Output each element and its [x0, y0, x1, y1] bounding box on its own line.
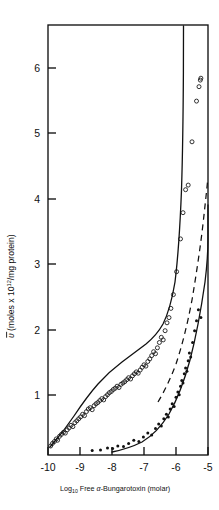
- y-axis-tick-labels: 6 5 4 3 2 1: [34, 62, 40, 401]
- data-point-filled: [154, 427, 157, 430]
- binding-curve-plot: 6 5 4 3 2 1 -10 -9 -8 -7 -6 -5: [0, 0, 219, 510]
- x-tick-label-neg7: -7: [139, 461, 148, 473]
- x-axis-title: Log10 Free α-Bungarotoxin (molar): [60, 484, 170, 494]
- data-point-filled: [187, 359, 190, 362]
- data-point-filled: [91, 449, 94, 452]
- data-point-filled: [165, 413, 168, 416]
- svg-text:υ (moles x 1012/mg protein): υ (moles x 1012/mg protein): [6, 234, 16, 338]
- data-point-filled: [122, 445, 125, 448]
- y-tick-label-4: 4: [34, 193, 40, 205]
- data-point-filled: [182, 382, 185, 385]
- y-tick-label-5: 5: [34, 127, 40, 139]
- data-point-filled: [142, 436, 145, 439]
- data-point-filled: [132, 439, 135, 442]
- data-point-filled: [106, 446, 109, 449]
- data-point-filled: [171, 402, 174, 405]
- x-axis-tick-labels: -10 -9 -8 -7 -6 -5: [40, 461, 212, 473]
- data-point-filled: [99, 448, 102, 451]
- data-point-filled: [189, 355, 192, 358]
- y-axis-title: υ (moles x 1012/mg protein): [6, 234, 16, 338]
- data-point-filled: [199, 316, 202, 319]
- data-point-filled: [162, 417, 165, 420]
- data-point-open: [186, 183, 190, 187]
- x-tick-label-neg5: -5: [203, 461, 212, 473]
- data-point-filled: [127, 442, 130, 445]
- x-tick-label-neg6: -6: [171, 461, 180, 473]
- y-tick-label-3: 3: [34, 258, 40, 270]
- data-point-filled: [160, 425, 163, 428]
- data-point-filled: [179, 385, 182, 388]
- data-point-filled: [157, 423, 160, 426]
- data-point-open: [157, 341, 161, 345]
- y-axis-title-tail: /mg protein): [6, 234, 16, 280]
- data-point-filled: [116, 445, 119, 448]
- data-point-filled: [150, 434, 153, 437]
- x-axis-title-log: Log: [60, 484, 72, 493]
- data-point-filled: [195, 319, 198, 322]
- data-point-filled: [167, 415, 170, 418]
- data-point-filled: [176, 391, 179, 394]
- figure-root: 6 5 4 3 2 1 -10 -9 -8 -7 -6 -5: [0, 0, 219, 510]
- y-tick-label-1: 1: [34, 389, 40, 401]
- data-point-filled: [197, 308, 200, 311]
- data-point-filled: [184, 366, 187, 369]
- data-point-filled: [193, 329, 196, 332]
- data-point-filled: [191, 341, 194, 344]
- x-tick-label-neg10: -10: [40, 461, 55, 473]
- svg-text:Log10 Free α-Bungarotoxin (mol: Log10 Free α-Bungarotoxin (molar): [60, 484, 170, 494]
- data-point-open: [197, 85, 201, 89]
- x-axis-title-free: Free: [78, 484, 97, 493]
- data-point-filled: [173, 405, 176, 408]
- data-point-filled: [175, 396, 178, 399]
- y-axis-ticks: [48, 68, 56, 395]
- data-point-filled: [188, 352, 191, 355]
- data-point-filled: [180, 379, 183, 382]
- plot-frame: [48, 25, 208, 455]
- data-point-open: [155, 346, 159, 350]
- data-point-open: [165, 321, 169, 325]
- y-tick-label-2: 2: [34, 324, 40, 336]
- data-point-filled: [185, 370, 188, 373]
- data-point-open: [181, 211, 185, 215]
- data-point-open: [167, 316, 171, 320]
- axes-border: [48, 25, 208, 455]
- x-tick-label-neg9: -9: [75, 461, 84, 473]
- data-point-open: [195, 99, 199, 103]
- data-point-filled: [137, 440, 140, 443]
- y-axis-title-open: (moles x 10: [6, 286, 16, 333]
- x-axis-title-toxin: -Bungarotoxin (molar): [101, 484, 171, 493]
- data-point-open: [150, 354, 154, 358]
- y-tick-label-6: 6: [34, 62, 40, 74]
- x-tick-label-neg8: -8: [107, 461, 116, 473]
- data-point-filled: [178, 393, 181, 396]
- data-point-filled: [146, 432, 149, 435]
- data-point-open: [163, 329, 167, 333]
- data-point-filled: [111, 447, 114, 450]
- data-point-filled: [183, 372, 186, 375]
- data-point-filled: [169, 408, 172, 411]
- data-point-open: [184, 188, 188, 192]
- data-point-open: [190, 140, 194, 144]
